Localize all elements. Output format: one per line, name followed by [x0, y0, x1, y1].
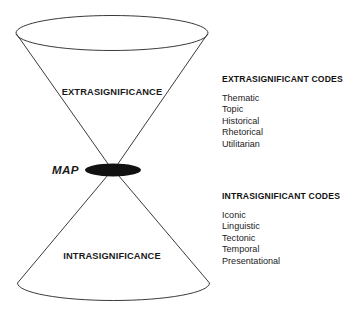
list-item: Historical	[222, 116, 358, 128]
list-item: Thematic	[222, 93, 358, 105]
extrasignificant-codes-block: EXTRASIGNIFICANT CODES Thematic Topic Hi…	[222, 75, 358, 151]
upper-cone-right-edge	[113, 34, 208, 171]
lower-cone-left-edge	[18, 169, 114, 283]
list-item: Presentational	[222, 256, 358, 268]
upper-cone-label: EXTRASIGNIFICANCE	[62, 88, 163, 97]
upper-cone-rim-ellipse	[16, 16, 208, 51]
intrasignificant-codes-block: INTRASIGNIFICANT CODES Iconic Linguistic…	[222, 192, 358, 268]
list-item: Linguistic	[222, 221, 358, 233]
map-label: MAP	[52, 164, 79, 176]
list-item: Rhetorical	[222, 127, 358, 139]
list-item: Temporal	[222, 244, 358, 256]
lower-cone-rim-arc	[18, 283, 210, 301]
list-item: Iconic	[222, 210, 358, 222]
intrasignificant-codes-list: Iconic Linguistic Tectonic Temporal Pres…	[222, 210, 358, 268]
extrasignificant-codes-heading: EXTRASIGNIFICANT CODES	[222, 75, 358, 84]
extrasignificant-codes-list: Thematic Topic Historical Rhetorical Uti…	[222, 93, 358, 151]
lower-cone-label: INTRASIGNIFICANCE	[63, 252, 161, 261]
list-item: Topic	[222, 104, 358, 116]
list-item: Tectonic	[222, 233, 358, 245]
map-plane-ellipse	[85, 164, 141, 177]
upper-cone-left-edge	[17, 34, 114, 171]
list-item: Utilitarian	[222, 139, 358, 151]
intrasignificant-codes-heading: INTRASIGNIFICANT CODES	[222, 192, 358, 201]
lower-cone-right-edge	[113, 169, 210, 283]
diagram-root: EXTRASIGNIFICANCE INTRASIGNIFICANCE MAP …	[0, 0, 361, 329]
